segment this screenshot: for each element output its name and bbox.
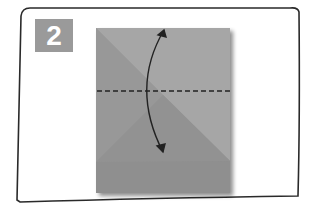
step-number-badge: 2 [35, 19, 73, 52]
paper-square [96, 28, 230, 193]
